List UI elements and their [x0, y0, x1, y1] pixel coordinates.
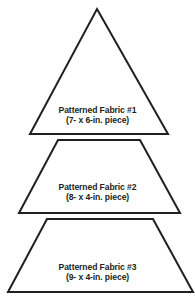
- piece-1-label: Patterned Fabric #1 (7- x 6-in. piece): [0, 105, 195, 125]
- piece-3-size: (9- x 4-in. piece): [0, 272, 195, 282]
- piece-3-label: Patterned Fabric #3 (9- x 4-in. piece): [0, 262, 195, 282]
- piece-2-label: Patterned Fabric #2 (8- x 4-in. piece): [0, 182, 195, 202]
- piece-2-title: Patterned Fabric #2: [0, 182, 195, 192]
- piece-2-size: (8- x 4-in. piece): [0, 192, 195, 202]
- piece-1-size: (7- x 6-in. piece): [0, 115, 195, 125]
- fabric-pieces-diagram: [0, 0, 195, 300]
- piece-1-title: Patterned Fabric #1: [0, 105, 195, 115]
- trapezoid-piece-2: [19, 140, 180, 213]
- piece-3-title: Patterned Fabric #3: [0, 262, 195, 272]
